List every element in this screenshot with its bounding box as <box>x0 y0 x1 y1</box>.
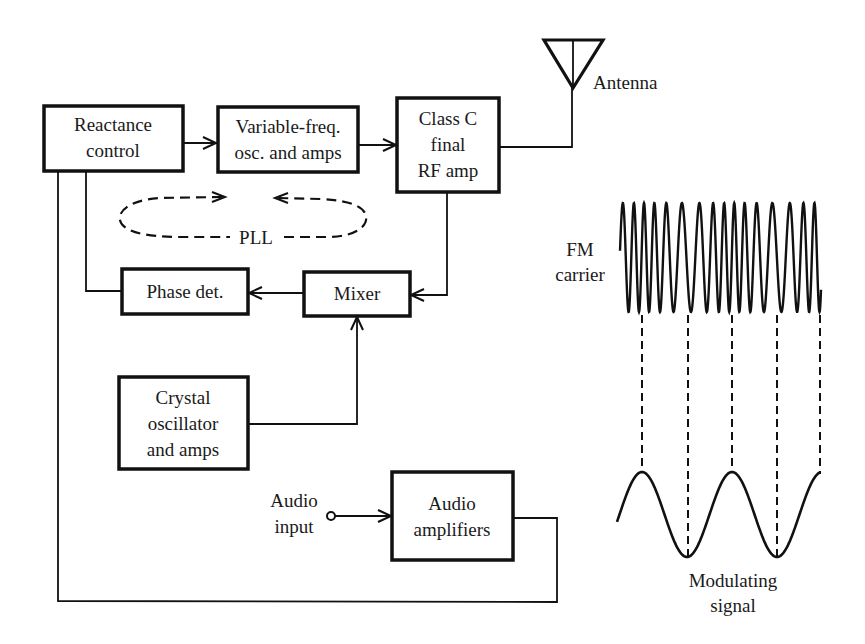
reactance-to-vfo-connection <box>183 137 217 149</box>
vfo-to-classc-connection <box>358 139 396 151</box>
pll-label: PLL <box>239 227 273 248</box>
modulating-sine-curve <box>617 472 820 557</box>
modulating-label-line1: Modulating <box>689 570 778 591</box>
crystal-label-line1: Crystal <box>156 387 211 408</box>
classc-to-antenna-connection <box>499 88 572 147</box>
peak-trough-guide-lines <box>642 315 820 557</box>
mixer-to-phase-connection <box>249 287 304 299</box>
phase-to-reactance-connection <box>86 171 122 291</box>
fm-transmitter-diagram: Reactance control Variable-freq. osc. an… <box>0 0 865 644</box>
phase-label: Phase det. <box>146 281 223 302</box>
audio-input-label-line1: Audio <box>270 490 318 511</box>
classc-label-line3: RF amp <box>418 160 479 181</box>
reactance-label-line2: control <box>86 140 140 161</box>
modulating-label-line2: signal <box>710 595 755 616</box>
classc-label-line2: final <box>431 134 466 155</box>
audioamp-label-line1: Audio <box>428 493 476 514</box>
variable-freq-osc-block: Variable-freq. osc. and amps <box>218 107 358 172</box>
mixer-block: Mixer <box>304 272 410 316</box>
crystal-label-line3: and amps <box>147 439 219 460</box>
mixer-label: Mixer <box>334 283 381 304</box>
classc-to-mixer-connection <box>411 192 447 301</box>
audio-input-label-line2: input <box>274 516 314 537</box>
audio-amplifiers-block: Audio amplifiers <box>392 472 513 560</box>
classc-label-line1: Class C <box>419 108 478 129</box>
phase-detector-block: Phase det. <box>122 269 248 314</box>
fm-carrier-curve <box>620 203 821 312</box>
reactance-control-block: Reactance control <box>44 106 183 171</box>
fm-carrier-waveform <box>620 203 821 312</box>
fm-carrier-label-line2: carrier <box>555 264 605 285</box>
antenna-label: Antenna <box>593 72 658 93</box>
crystal-to-mixer-connection <box>248 317 363 424</box>
modulating-signal-waveform <box>617 472 820 557</box>
crystal-label-line2: oscillator <box>148 413 219 434</box>
fm-carrier-label-line1: FM <box>566 239 594 260</box>
pll-loop-indicator: PLL <box>120 192 366 248</box>
reactance-label-line1: Reactance <box>74 114 152 135</box>
crystal-oscillator-block: Crystal oscillator and amps <box>119 377 248 469</box>
audio-input-connection <box>327 510 391 522</box>
vfo-label-line2: osc. and amps <box>234 142 341 163</box>
vfo-label-line1: Variable-freq. <box>236 116 341 137</box>
audioamp-label-line2: amplifiers <box>413 519 490 540</box>
class-c-rf-amp-block: Class C final RF amp <box>397 98 499 192</box>
